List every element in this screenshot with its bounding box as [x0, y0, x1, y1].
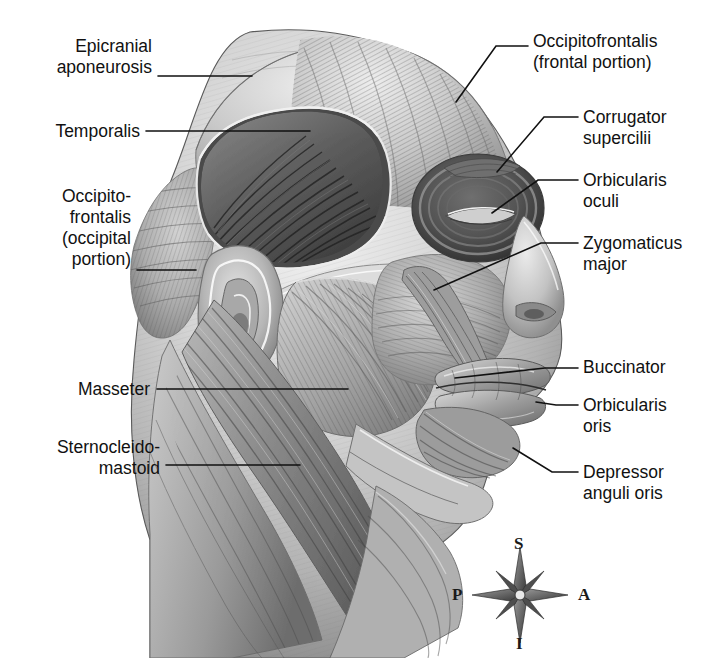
- label-orbicularis-oculi: Orbicularis oculi: [583, 170, 710, 212]
- label-zygomaticus-major: Zygomaticus major: [583, 233, 710, 275]
- label-orbicularis-oris: Orbicularis oris: [583, 395, 710, 437]
- label-sternocleidomastoid: Sternocleido- mastoid: [0, 437, 160, 479]
- head-anatomy-illustration: [0, 0, 710, 658]
- label-buccinator: Buccinator: [583, 357, 710, 378]
- label-masseter: Masseter: [0, 379, 150, 400]
- label-epicranial-aponeurosis: Epicranial aponeurosis: [0, 36, 152, 78]
- label-depressor-anguli-oris: Depressor anguli oris: [583, 462, 710, 504]
- label-temporalis: Temporalis: [0, 121, 140, 142]
- compass-label-anterior: A: [578, 585, 590, 605]
- label-corrugator-supercilii: Corrugator supercilii: [583, 107, 710, 149]
- compass-label-superior: S: [514, 534, 523, 554]
- illustration-canvas: Epicranial aponeurosis Temporalis Occipi…: [0, 0, 710, 658]
- label-occipitofrontalis-occipital: Occipito- frontalis (occipital portion): [0, 186, 131, 270]
- compass-label-posterior: P: [452, 585, 462, 605]
- label-occipitofrontalis-frontal: Occipitofrontalis (frontal portion): [533, 31, 710, 73]
- compass-label-inferior: I: [516, 634, 523, 654]
